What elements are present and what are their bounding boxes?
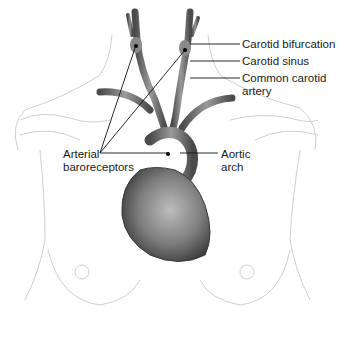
label-aortic-line2: arch [221, 161, 243, 174]
label-aortic-line1: Aortic [221, 148, 250, 161]
anatomy-illustration [0, 0, 339, 351]
label-arterial-line2: baroreceptors [63, 161, 134, 174]
baroreceptor-diagram: Carotid bifurcation Carotid sinus Common… [0, 0, 339, 351]
label-common-carotid-line2: artery [242, 85, 271, 98]
heart [122, 168, 210, 262]
label-carotid-sinus: Carotid sinus [242, 55, 309, 68]
label-arterial-line1: Arterial [63, 148, 99, 161]
label-carotid-bifurcation: Carotid bifurcation [242, 38, 335, 51]
label-common-carotid-line1: Common carotid [242, 72, 326, 85]
